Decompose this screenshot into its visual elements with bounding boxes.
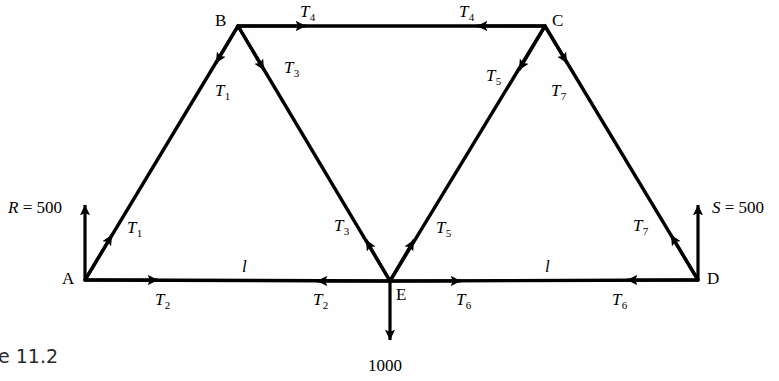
truss-diagram-svg	[0, 0, 779, 381]
applied-load-label: 1000	[368, 357, 402, 374]
figure-canvas: A B C D E T1 T1 T3 T3 T4 T4 T5 T5 T7 T7 …	[0, 0, 779, 381]
node-label-B: B	[215, 12, 226, 29]
member-label-T2-right: T2	[313, 291, 328, 311]
member-label-T5-upper: T5	[486, 67, 501, 87]
member-label-T2-left: T2	[155, 291, 170, 311]
reaction-label-S: S = 500	[712, 199, 764, 216]
figure-caption: e 11.2	[0, 345, 58, 367]
node-label-C: C	[552, 12, 563, 29]
member-label-T1-upper: T1	[215, 82, 230, 102]
member-label-T4-right: T4	[459, 3, 474, 23]
node-label-E: E	[396, 286, 406, 303]
arrow-T7-at-D	[671, 235, 698, 280]
external-force-arrows	[85, 205, 698, 340]
member-label-T6-right: T6	[612, 291, 627, 311]
member-label-T7-upper: T7	[551, 82, 566, 102]
truss-members	[85, 26, 698, 281]
arrow-T3-at-E	[366, 240, 390, 281]
member-label-T3-upper: T3	[284, 59, 299, 79]
arrow-T5-at-C	[519, 26, 545, 70]
member-label-T3-lower: T3	[334, 217, 349, 237]
reaction-label-R: R = 500	[8, 199, 62, 216]
arrow-T1-at-A	[85, 235, 112, 280]
arrow-T5-at-E	[390, 240, 414, 281]
member-label-T6-left: T6	[456, 291, 471, 311]
arrow-T1-at-B	[216, 26, 238, 63]
member-label-T4-left: T4	[300, 3, 315, 23]
arrow-T3-at-B	[238, 26, 264, 70]
node-label-D: D	[707, 270, 719, 287]
span-length-label-left: l	[242, 258, 247, 275]
span-length-label-right: l	[545, 258, 550, 275]
arrow-T7-at-C	[545, 26, 567, 63]
member-label-T1-lower: T1	[127, 219, 142, 239]
member-label-T7-lower: T7	[633, 217, 648, 237]
member-force-arrows	[85, 26, 698, 281]
node-label-A: A	[62, 270, 74, 287]
member-label-T5-lower: T5	[436, 219, 451, 239]
